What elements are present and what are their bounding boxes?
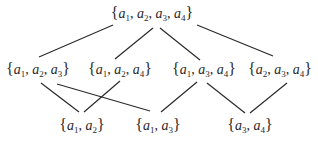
set-element: a3: [51, 62, 63, 77]
edge-n1234-n123: [39, 25, 113, 57]
close-brace: }: [173, 116, 181, 133]
set-element: a3: [198, 62, 210, 77]
open-brace: {: [88, 60, 96, 77]
set-element: a1: [119, 6, 131, 21]
set-element: a1: [143, 118, 155, 133]
edge-n123-n13: [57, 84, 150, 111]
edge-n1234-n234: [197, 25, 273, 56]
open-brace: {: [111, 4, 119, 21]
edge-n124-n12: [84, 81, 120, 112]
set-element: a3: [235, 118, 247, 133]
set-element: a1: [96, 62, 108, 77]
set-element: a4: [133, 62, 145, 77]
set-element: a3: [156, 6, 168, 21]
set-node-n12: {a1, a2}: [59, 117, 104, 135]
set-element: a2: [86, 118, 98, 133]
set-node-n124: {a1, a2, a4}: [88, 61, 152, 79]
close-brace: }: [186, 4, 194, 21]
close-brace: }: [62, 60, 70, 77]
set-node-n1234: {a1, a2, a3, a4}: [111, 5, 193, 23]
set-node-n13: {a1, a3}: [135, 117, 180, 135]
open-brace: {: [59, 116, 67, 133]
close-brace: }: [144, 60, 152, 77]
set-element: a1: [14, 62, 26, 77]
edge-n234-n34: [250, 83, 287, 113]
set-node-n234: {a2, a3, a4}: [248, 61, 312, 79]
set-element: a4: [254, 118, 266, 133]
edge-n1234-n124: [115, 28, 153, 59]
edge-n123-n12: [41, 83, 79, 112]
set-element: a2: [114, 62, 126, 77]
set-element: a4: [293, 62, 305, 77]
close-brace: }: [97, 116, 105, 133]
set-element: a2: [32, 62, 44, 77]
set-element: a4: [174, 6, 186, 21]
open-brace: {: [172, 60, 180, 77]
set-element: a2: [137, 6, 149, 21]
set-node-n134: {a1, a3, a4}: [172, 61, 236, 79]
open-brace: {: [6, 60, 14, 77]
set-node-n34: {a3, a4}: [227, 117, 272, 135]
set-element: a3: [162, 118, 174, 133]
set-element: a4: [217, 62, 229, 77]
set-node-n123: {a1, a2, a3}: [6, 61, 70, 79]
set-element: a1: [67, 118, 79, 133]
open-brace: {: [227, 116, 235, 133]
close-brace: }: [265, 116, 273, 133]
edge-n134-n34: [207, 83, 245, 113]
close-brace: }: [228, 60, 236, 77]
set-element: a1: [180, 62, 192, 77]
set-element: a3: [274, 62, 286, 77]
open-brace: {: [248, 60, 256, 77]
set-element: a2: [256, 62, 268, 77]
close-brace: }: [304, 60, 312, 77]
edge-n1234-n134: [160, 28, 200, 60]
edge-n134-n13: [161, 82, 197, 112]
hasse-diagram: {a1, a2, a3, a4}{a1, a2, a3}{a1, a2, a4}…: [0, 0, 318, 145]
open-brace: {: [135, 116, 143, 133]
